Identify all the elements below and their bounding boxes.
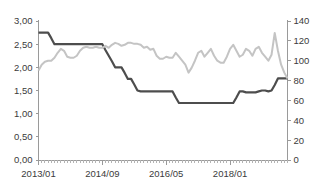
left-axis-tick-label: 3,00 xyxy=(14,15,33,26)
x-axis-tick-label: 2016/05 xyxy=(149,168,183,179)
right-axis-tick-label: 20 xyxy=(294,135,305,146)
x-axis-tick-label: 2013/01 xyxy=(21,168,55,179)
left-axis-tick-label: 1,50 xyxy=(14,85,33,96)
line-chart: 0,000,501,001,502,002,503,00020406080100… xyxy=(0,0,325,193)
right-axis-tick-label: 120 xyxy=(294,35,310,46)
left-axis-tick-label: 1,00 xyxy=(14,108,33,119)
right-axis-tick-label: 40 xyxy=(294,115,305,126)
left-axis-tick-label: 2,50 xyxy=(14,39,33,50)
left-axis-tick-label: 0,00 xyxy=(14,154,33,165)
right-axis-tick-label: 100 xyxy=(294,55,310,66)
series-line-light-series xyxy=(39,33,288,79)
right-axis-tick-label: 140 xyxy=(294,15,310,26)
left-axis-tick-label: 0,50 xyxy=(14,131,33,142)
x-axis-tick-label: 2018/01 xyxy=(213,168,247,179)
x-axis-tick-label: 2014/09 xyxy=(85,168,119,179)
chart-container: 0,000,501,001,502,002,503,00020406080100… xyxy=(0,0,325,193)
left-axis-tick-label: 2,00 xyxy=(14,62,33,73)
right-axis-tick-label: 60 xyxy=(294,95,305,106)
right-axis-tick-label: 0 xyxy=(294,154,299,165)
series-line-dark-series xyxy=(39,33,288,103)
right-axis-tick-label: 80 xyxy=(294,75,305,86)
